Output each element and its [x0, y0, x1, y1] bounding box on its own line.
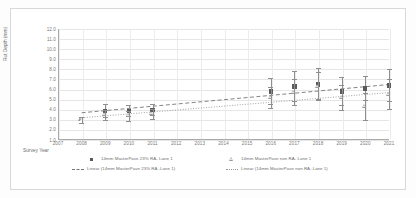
legend-label: Linear (14mm MasterPave non RA -Lane 1) [241, 166, 328, 172]
error-bar-cap [363, 76, 368, 77]
error-bar-cap [292, 71, 297, 72]
legend-label: 14mm MasterPave non RA- Lane 1 [241, 156, 311, 162]
dashed-line-key [72, 166, 84, 172]
error-bar-cap [339, 85, 344, 86]
x-tick-label: 2021 [374, 141, 404, 147]
data-point-square [363, 86, 367, 90]
error-bar-cap [268, 87, 273, 88]
y-tick-label: 2.0 [32, 127, 56, 132]
error-bar-cap [339, 77, 344, 78]
data-point-triangle [339, 95, 343, 99]
error-bar-cap [316, 68, 321, 69]
y-tick-label: 7.0 [32, 77, 56, 82]
legend-label: 14mm MasterPave 23% RA- Lane 1 [101, 156, 173, 162]
data-point-triangle [103, 112, 107, 116]
error-bar-cap [387, 109, 392, 110]
legend-item-rut-23ra[interactable]: 14mm MasterPave 23% RA- Lane 1 [86, 155, 173, 163]
y-tick-label: 9.0 [32, 57, 56, 62]
error-bar-cap [150, 109, 155, 110]
error-bar-cap [103, 110, 108, 111]
error-bar-cap [316, 72, 321, 73]
data-point-triangle [79, 117, 83, 121]
error-bar-cap [387, 79, 392, 80]
data-point-triangle [363, 104, 367, 108]
legend-item-trend-23ra[interactable]: Linear (14mm MasterPave 23% RA -Lane 1) [72, 165, 175, 173]
error-bar-cap [363, 93, 368, 94]
data-point-triangle [126, 113, 130, 117]
error-bar-cap [126, 105, 131, 106]
x-axis-title: Survey Year [23, 148, 49, 154]
triangle-marker-key [226, 156, 238, 162]
legend-item-trend-nonra[interactable]: Linear (14mm MasterPave non RA -Lane 1) [226, 165, 328, 173]
y-axis-tick-labels: 12.011.010.09.08.07.06.05.04.03.02.01.0 [30, 29, 56, 140]
error-bar-cap [268, 78, 273, 79]
error-bar-cap [339, 110, 344, 111]
y-tick-label: 4.0 [32, 107, 56, 112]
error-bar-cap [126, 111, 131, 112]
error-bar-cap [316, 100, 321, 101]
error-bar-cap [292, 79, 297, 80]
y-tick-label: 6.0 [32, 87, 56, 92]
y-tick-label: 8.0 [32, 67, 56, 72]
error-bar-cap [363, 120, 368, 121]
y-tick-label: 12.0 [32, 27, 56, 32]
error-bar-cap [150, 119, 155, 120]
error-bar-cap [103, 120, 108, 121]
data-point-triangle [292, 90, 296, 94]
legend-item-rut-nonra[interactable]: 14mm MasterPave non RA- Lane 1 [226, 155, 311, 163]
y-tick-label: 11.0 [32, 37, 56, 42]
x-axis-tick-labels: 2007200820092010201120122013201420152016… [58, 141, 389, 151]
screenshot-root: Rut Depth (mm) Survey Year 12.011.010.09… [0, 0, 416, 198]
error-bar-cap [79, 123, 84, 124]
square-marker-key [86, 156, 98, 162]
y-axis-title: Rut Depth (mm) [3, 27, 9, 61]
y-tick-label: 5.0 [32, 97, 56, 102]
chart-container: Rut Depth (mm) Survey Year 12.011.010.09… [10, 8, 406, 190]
data-point-triangle [150, 111, 154, 115]
error-bar-cap [150, 104, 155, 105]
data-point-triangle [268, 95, 272, 99]
error-bar-cap [387, 69, 392, 70]
chart-legend: 14mm MasterPave 23% RA- Lane 1 14mm Mast… [58, 155, 389, 181]
error-bar-cap [268, 108, 273, 109]
data-point-triangle [386, 92, 390, 96]
data-point-triangle [315, 84, 319, 88]
y-tick-label: 10.0 [32, 47, 56, 52]
error-bar-cap [126, 121, 131, 122]
dotted-line-key [226, 166, 238, 172]
y-tick-label: 3.0 [32, 117, 56, 122]
error-bar-cap [103, 104, 108, 105]
error-bar-cap [292, 105, 297, 106]
data-series-layer [58, 29, 389, 140]
legend-label: Linear (14mm MasterPave 23% RA -Lane 1) [87, 166, 175, 172]
